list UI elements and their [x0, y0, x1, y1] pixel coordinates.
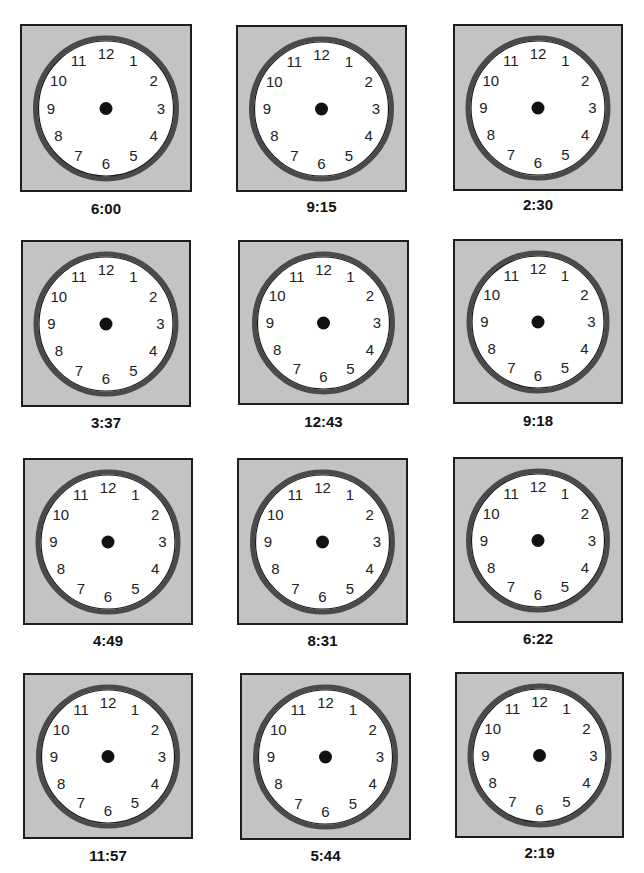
clock-number: 11 — [503, 485, 519, 502]
clock-number: 11 — [71, 268, 87, 285]
clock-number: 8 — [57, 560, 65, 577]
clock-face-icon: 121234567891011 — [238, 240, 409, 405]
clock-number: 4 — [151, 775, 159, 792]
center-dot-icon — [102, 750, 115, 763]
clock-number: 6 — [317, 155, 325, 172]
clock-number: 10 — [482, 72, 499, 89]
clock-number: 1 — [561, 267, 569, 284]
clock-number: 2 — [366, 506, 374, 523]
clock-number: 2 — [149, 288, 157, 305]
clock-number: 10 — [50, 72, 67, 89]
center-dot-icon — [315, 103, 328, 116]
clock-number: 5 — [345, 147, 353, 164]
clock-number: 9 — [481, 747, 489, 764]
clock-number: 9 — [47, 315, 55, 332]
clock-time-label: 5:44 — [310, 847, 340, 864]
center-dot-icon — [532, 316, 545, 329]
clock-number: 11 — [73, 701, 89, 718]
clock-number: 3 — [156, 315, 164, 332]
clock-number: 6 — [102, 370, 110, 387]
clock-face-icon: 121234567891011 — [20, 24, 192, 192]
clock-number: 7 — [291, 580, 299, 597]
clock-number: 6 — [104, 588, 112, 605]
clock-number: 4 — [581, 126, 589, 143]
clock-number: 1 — [561, 52, 569, 69]
clock-number: 9 — [267, 748, 275, 765]
clock-number: 7 — [508, 793, 516, 810]
clock-number: 3 — [589, 747, 597, 764]
clock-number: 4 — [581, 559, 589, 576]
clock-time-label: 9:15 — [306, 198, 336, 215]
worksheet-header-clipped — [0, 0, 644, 6]
clock-card: 121234567891011 — [453, 239, 623, 404]
clock-number: 4 — [580, 340, 588, 357]
clock-number: 12 — [530, 478, 547, 495]
clock-number: 9 — [263, 100, 271, 117]
clock-number: 3 — [373, 533, 381, 550]
clock-number: 4 — [149, 127, 157, 144]
clock-number: 5 — [131, 580, 139, 597]
clock-number: 6 — [321, 803, 329, 820]
center-dot-icon — [532, 102, 545, 115]
clock-number: 12 — [313, 46, 330, 63]
clock-number: 12 — [98, 45, 115, 62]
clock-number: 2 — [149, 72, 157, 89]
clock-number: 6 — [102, 155, 110, 172]
clock-number: 1 — [129, 268, 137, 285]
clock-number: 1 — [561, 485, 569, 502]
clock-number: 5 — [131, 794, 139, 811]
clock-number: 3 — [158, 533, 166, 550]
clock-number: 9 — [50, 748, 58, 765]
clock-number: 6 — [534, 154, 542, 171]
clock-time-label: 2:30 — [523, 196, 553, 213]
clock-number: 9 — [479, 99, 487, 116]
clock-face-icon: 121234567891011 — [237, 458, 408, 625]
clock-number: 3 — [157, 100, 165, 117]
clock-number: 2 — [151, 506, 159, 523]
center-dot-icon — [319, 751, 332, 764]
clock-card: 121234567891011 — [236, 25, 407, 192]
clock-number: 10 — [50, 288, 67, 305]
clock-time-label: 9:18 — [523, 412, 553, 429]
clock-number: 6 — [319, 368, 327, 385]
clock-number: 8 — [57, 775, 65, 792]
center-dot-icon — [533, 749, 546, 762]
clock-number: 5 — [346, 580, 354, 597]
clock-number: 9 — [480, 313, 488, 330]
clock-number: 3 — [588, 99, 596, 116]
clock-number: 4 — [151, 560, 159, 577]
clock-number: 5 — [561, 578, 569, 595]
clock-number: 2 — [580, 286, 588, 303]
clock-face-icon: 121234567891011 — [453, 457, 623, 623]
clock-face-icon: 121234567891011 — [236, 25, 407, 192]
clock-number: 11 — [505, 700, 521, 717]
center-dot-icon — [532, 534, 545, 547]
clock-number: 10 — [53, 721, 70, 738]
clock-number: 10 — [483, 286, 500, 303]
clock-card: 121234567891011 — [237, 458, 408, 625]
clock-number: 5 — [561, 146, 569, 163]
clock-number: 3 — [373, 314, 381, 331]
clock-number: 9 — [49, 533, 57, 550]
clock-number: 12 — [531, 693, 548, 710]
clock-number: 8 — [488, 340, 496, 357]
clock-number: 11 — [286, 53, 302, 70]
clock-number: 7 — [74, 147, 82, 164]
clock-time-label: 6:00 — [91, 200, 121, 217]
clock-number: 10 — [267, 506, 284, 523]
clock-number: 1 — [346, 268, 354, 285]
clock-number: 6 — [534, 586, 542, 603]
clock-number: 8 — [273, 341, 281, 358]
clock-number: 2 — [581, 505, 589, 522]
clock-number: 6 — [534, 367, 542, 384]
clock-number: 2 — [369, 721, 377, 738]
clock-time-label: 12:43 — [304, 413, 342, 430]
clock-number: 5 — [561, 359, 569, 376]
clock-number: 10 — [270, 721, 287, 738]
clock-number: 1 — [562, 700, 570, 717]
clock-number: 7 — [75, 362, 83, 379]
center-dot-icon — [102, 536, 115, 549]
clock-time-label: 2:19 — [524, 844, 554, 861]
clock-number: 12 — [98, 261, 115, 278]
clock-number: 5 — [349, 795, 357, 812]
